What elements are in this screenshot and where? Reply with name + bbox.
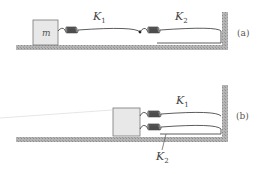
tag-a: (a) [237,29,249,38]
k1-a-symbol: K [93,10,101,23]
spring-k1-b [140,111,221,117]
label-k2-a: K2 [175,11,188,25]
mass-label: m [42,28,51,38]
faint-line [0,110,112,118]
k1-a-subscript: 1 [101,17,105,25]
k1-b-symbol: K [176,94,184,107]
label-k2-b: K2 [156,151,169,165]
spring-k1-a [58,27,140,33]
spring-diagram [0,0,259,174]
k2-a-subscript: 2 [183,17,187,25]
figure-b [0,85,228,150]
k1-b-subscript: 1 [184,101,188,109]
spring-k2-b [140,124,221,134]
k2-b-symbol: K [156,150,164,163]
wall-b [222,85,228,142]
tag-b: (b) [236,112,249,121]
k2-a-symbol: K [175,10,183,23]
label-k1-a: K1 [93,11,106,25]
spring-k2-a [140,27,221,43]
label-k1-b: K1 [176,95,189,109]
k2-b-subscript: 2 [164,157,168,165]
ground-a [16,45,228,50]
ground-b [16,137,228,142]
wall-a [222,12,228,50]
block-b [113,108,140,136]
